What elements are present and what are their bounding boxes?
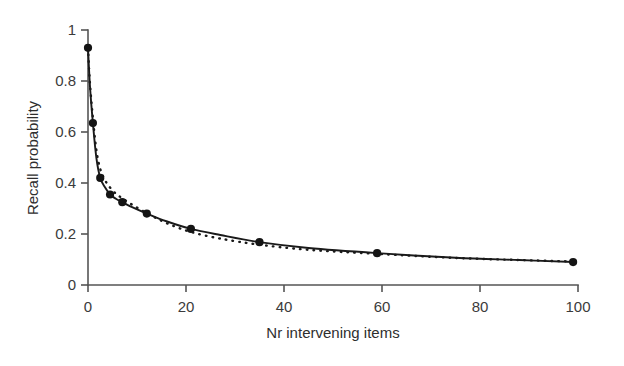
x-tick-label-40: 40 [276,298,293,315]
data-point [96,174,104,182]
data-point-markers [84,44,577,266]
data-point [89,119,97,127]
dotted-fit-curve [88,48,573,262]
data-point [106,190,114,198]
y-tick-label-0-6: 0.6 [55,123,76,140]
data-point [143,210,151,218]
recall-probability-chart: 0 0.2 0.4 0.6 0.8 1 0 20 40 60 80 100 Nr… [0,0,624,366]
y-axis-ticks [81,30,88,285]
x-tick-label-60: 60 [374,298,391,315]
y-tick-label-0: 0 [68,276,76,293]
data-point [118,198,126,206]
y-tick-label-0-2: 0.2 [55,225,76,242]
data-point [373,249,381,257]
y-tick-label-0-8: 0.8 [55,72,76,89]
x-axis-title: Nr intervening items [266,324,399,341]
y-axis-title: Recall probability [24,100,41,215]
x-axis-ticks [88,285,578,292]
x-tick-label-0: 0 [84,298,92,315]
y-tick-label-1: 1 [68,21,76,38]
solid-fit-curve [88,48,573,262]
figure-container: 0 0.2 0.4 0.6 0.8 1 0 20 40 60 80 100 Nr… [0,0,624,366]
y-tick-label-0-4: 0.4 [55,174,76,191]
data-point [569,258,577,266]
x-tick-label-100: 100 [565,298,590,315]
data-point [84,44,92,52]
data-point [255,238,263,246]
x-tick-label-20: 20 [178,298,195,315]
data-point [187,225,195,233]
x-tick-label-80: 80 [472,298,489,315]
